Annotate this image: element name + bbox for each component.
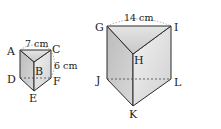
vertex-label-a: A <box>6 45 16 58</box>
vertex-label-j: J <box>95 74 100 87</box>
measure-7cm: 7 cm <box>25 38 48 49</box>
vertex-label-e: E <box>29 92 37 105</box>
vertex-label-d: D <box>7 73 16 86</box>
vertex-label-g: G <box>95 21 104 34</box>
small-prism: A C B D F E 7 cm 6 cm <box>6 38 77 105</box>
prisms-diagram: A C B D F E 7 cm 6 cm G I H J L K 14 cm <box>0 0 221 129</box>
measure-14cm: 14 cm <box>124 12 153 23</box>
vertex-label-l: L <box>174 76 182 89</box>
vertex-label-k: K <box>129 108 138 121</box>
vertex-label-f: F <box>53 75 61 88</box>
vertex-label-h: H <box>134 54 144 67</box>
large-prism: G I H J L K 14 cm <box>95 12 182 121</box>
vertex-label-b: B <box>35 65 43 78</box>
vertex-label-i: I <box>174 21 178 34</box>
measure-6cm: 6 cm <box>54 60 77 71</box>
vertex-label-c: C <box>52 43 60 56</box>
